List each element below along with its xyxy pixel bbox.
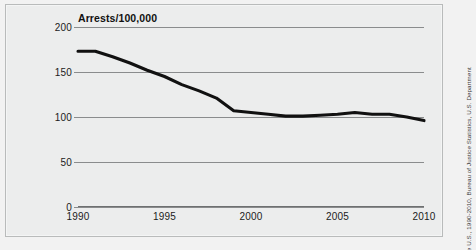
plot-area: 050100150200 19901995200020052010	[78, 27, 424, 207]
chart-title: Arrests/100,000	[78, 12, 157, 24]
x-axis-tick-label: 1995	[153, 211, 176, 222]
x-axis-tick-label: 1990	[66, 211, 89, 222]
x-axis-tick-label: 2010	[412, 211, 435, 222]
y-axis-tick-label: 50	[60, 157, 72, 168]
y-axis-tick-label: 100	[55, 112, 72, 123]
x-axis-tick-label: 2005	[326, 211, 349, 222]
y-axis-tick-mark	[74, 207, 78, 208]
x-axis-tick-label: 2000	[239, 211, 262, 222]
chart-panel: Arrests/100,000 050100150200 19901995200…	[5, 4, 443, 237]
y-axis-tick-label: 200	[55, 22, 72, 33]
chart-figure: Arrests/100,000 050100150200 19901995200…	[0, 0, 476, 250]
data-series-line	[78, 27, 424, 207]
source-note: Source: Arrest in the U.S., 1990-2010, B…	[461, 0, 475, 250]
y-axis-tick-label: 150	[55, 67, 72, 78]
source-note-text: Source: Arrest in the U.S., 1990-2010, B…	[465, 67, 472, 250]
gridline	[78, 207, 424, 208]
